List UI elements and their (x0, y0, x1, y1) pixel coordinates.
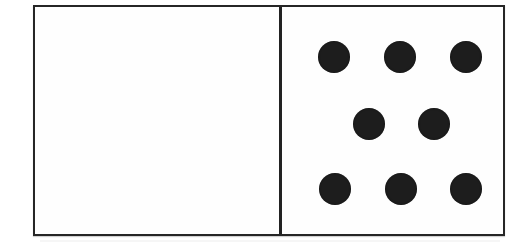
pip-bottom-left (319, 173, 351, 205)
domino-half-right-eight (282, 7, 503, 234)
pip-top-left (318, 41, 350, 73)
image-canvas (0, 0, 521, 251)
pip-middle-left (353, 108, 385, 140)
pip-bottom-center (385, 173, 417, 205)
pip-top-center (384, 41, 416, 73)
domino-half-left-blank (35, 7, 279, 234)
tile-drop-shadow (40, 240, 500, 242)
pip-bottom-right (450, 173, 482, 205)
pip-middle-right (418, 108, 450, 140)
pip-top-right (450, 41, 482, 73)
domino-tile[interactable] (33, 5, 505, 236)
